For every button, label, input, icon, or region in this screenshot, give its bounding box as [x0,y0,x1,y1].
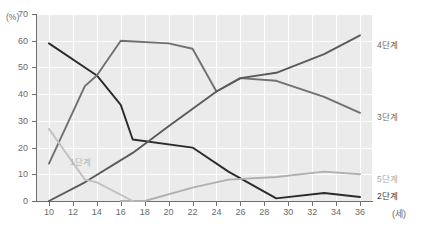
y-tick-mark [32,67,36,68]
x-tick-label: 22 [181,207,205,217]
x-tick-label: 14 [85,207,109,217]
gridline-vertical [121,14,122,201]
x-tick-label: 12 [61,207,85,217]
x-tick-mark [288,202,289,206]
x-tick-mark [145,202,146,206]
gridline-vertical [193,14,194,201]
x-tick-mark [240,202,241,206]
gridline-horizontal [37,94,372,95]
gridline-vertical [360,14,361,201]
gridline-vertical [97,14,98,201]
x-tick-label: 26 [228,207,252,217]
gridline-horizontal [37,174,372,175]
x-tick-mark [336,202,337,206]
x-tick-label: 32 [300,207,324,217]
gridline-vertical [240,14,241,201]
gridline-vertical [264,14,265,201]
x-tick-mark [73,202,74,206]
legend-label-5danggye: 5단계 [377,175,398,184]
x-tick-mark [49,202,50,206]
y-tick-mark [32,14,36,15]
y-tick-mark [32,121,36,122]
y-tick-mark [32,148,36,149]
legend-label-3danggye: 3단계 [377,113,398,122]
gridline-vertical [288,14,289,201]
plot-area [37,14,372,201]
x-tick-label: 28 [252,207,276,217]
y-tick-label: 50 [0,63,28,72]
x-tick-label: 30 [276,207,300,217]
gridline-vertical [216,14,217,201]
gridline-horizontal [37,148,372,149]
x-tick-label: 34 [324,207,348,217]
y-tick-mark [32,201,36,202]
gridline-vertical [73,14,74,201]
x-tick-label: 16 [109,207,133,217]
y-axis-line [36,14,37,202]
gridline-horizontal [37,67,372,68]
y-tick-label: 20 [0,144,28,153]
x-tick-mark [121,202,122,206]
gridline-horizontal [37,14,372,15]
y-tick-label: 60 [0,37,28,46]
x-tick-label: 10 [37,207,61,217]
x-tick-label: 36 [348,207,372,217]
x-tick-label: 24 [204,207,228,217]
x-tick-mark [193,202,194,206]
x-tick-mark [169,202,170,206]
y-tick-mark [32,174,36,175]
gridline-vertical [336,14,337,201]
x-tick-label: 20 [157,207,181,217]
y-tick-label: 70 [0,10,28,19]
x-tick-mark [216,202,217,206]
gridline-vertical [312,14,313,201]
x-tick-mark [360,202,361,206]
line-chart: (%) (세) 010203040506070 1012141618202224… [0,0,431,236]
x-axis-line [36,201,373,202]
gridline-vertical [49,14,50,201]
x-tick-mark [97,202,98,206]
y-tick-mark [32,94,36,95]
x-tick-mark [264,202,265,206]
gridline-vertical [145,14,146,201]
gridline-horizontal [37,121,372,122]
y-tick-label: 30 [0,117,28,126]
gridline-vertical [169,14,170,201]
y-tick-label: 0 [0,197,28,206]
y-tick-mark [32,41,36,42]
inline-label-1danggye: 1단계 [70,155,91,167]
y-tick-label: 10 [0,170,28,179]
x-tick-label: 18 [133,207,157,217]
gridline-horizontal [37,41,372,42]
x-tick-mark [312,202,313,206]
legend-label-2danggye: 2단계 [377,192,398,201]
legend-label-4danggye: 4단계 [377,41,398,50]
y-tick-label: 40 [0,90,28,99]
x-axis-unit-label: (세) [392,207,406,220]
